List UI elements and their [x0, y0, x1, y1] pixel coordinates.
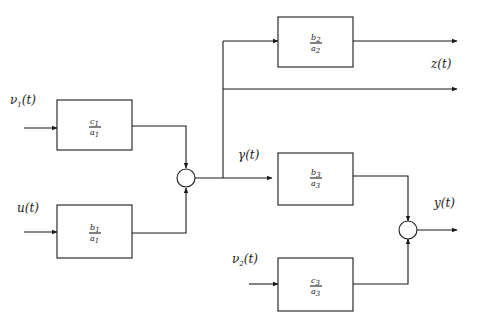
label-nu2: ν2(t) [232, 252, 258, 268]
label-u: u(t) [17, 201, 39, 215]
svg-text:a2: a2 [311, 44, 321, 55]
label-nu1: ν1(t) [10, 93, 36, 109]
svg-text:c3: c3 [311, 276, 320, 287]
svg-text:b3: b3 [311, 168, 321, 179]
svg-text:b1: b1 [90, 223, 100, 234]
block-diagram: ν1(t) u(t) γ(t) z(t) y(t) ν2(t) c1 a1 b1… [0, 0, 477, 328]
svg-text:a1: a1 [90, 128, 99, 139]
svg-text:a1: a1 [90, 234, 99, 245]
label-z: z(t) [430, 57, 452, 71]
c1a1-to-sum1-wire [132, 126, 186, 168]
label-y: y(t) [433, 196, 455, 210]
svg-text:b2: b2 [311, 33, 321, 44]
svg-text:a3: a3 [311, 179, 321, 190]
b1a1-to-sum1-wire [132, 188, 186, 233]
summing-junction-1 [177, 169, 195, 187]
c3a3-to-sum2-wire [353, 239, 408, 284]
label-gamma: γ(t) [238, 148, 260, 162]
svg-text:c1: c1 [90, 117, 99, 128]
summing-junction-2 [399, 221, 417, 239]
b3a3-to-sum2-wire [353, 176, 408, 221]
svg-text:a3: a3 [311, 287, 321, 298]
